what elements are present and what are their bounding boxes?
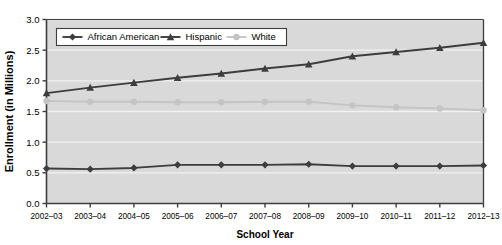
x-tick-label: 2010–11 (380, 212, 412, 221)
x-tick-label: 2002–03 (31, 212, 63, 221)
data-point-white (480, 107, 486, 113)
x-tick-label: 2003–04 (74, 212, 106, 221)
y-tick-label: 0.0 (26, 198, 39, 209)
x-tick-label: 2011–12 (424, 212, 456, 221)
x-tick-label: 2005–06 (162, 212, 194, 221)
chart-canvas: 0.00.51.01.52.02.53.02002–032003–042004–… (0, 0, 502, 245)
y-tick-label: 0.5 (26, 167, 39, 178)
legend-label-white: White (252, 31, 276, 42)
x-tick-label: 2007–08 (249, 212, 281, 221)
y-tick-label: 1.5 (26, 106, 39, 117)
y-axis-title: Enrollment (in Millions) (3, 50, 15, 172)
data-point-white (393, 104, 399, 110)
y-tick-label: 2.0 (26, 75, 39, 86)
data-point-white (306, 98, 312, 104)
data-point-white (87, 98, 93, 104)
enrollment-line-chart: 0.00.51.01.52.02.53.02002–032003–042004–… (0, 0, 502, 245)
legend-label-african-american: African American (88, 31, 160, 42)
legend-label-hispanic: Hispanic (186, 31, 223, 42)
data-point-white (349, 102, 355, 108)
data-point-white (131, 98, 137, 104)
x-tick-label: 2012–13 (468, 212, 500, 221)
data-point-white (218, 99, 224, 105)
data-point-white (43, 98, 49, 104)
data-point-white (174, 99, 180, 105)
x-tick-label: 2008–09 (293, 212, 325, 221)
data-point-white (437, 105, 443, 111)
x-tick-label: 2004–05 (118, 212, 150, 221)
y-tick-label: 3.0 (26, 14, 39, 25)
legend-marker-white (233, 34, 239, 40)
x-tick-label: 2006–07 (205, 212, 237, 221)
x-axis-title: School Year (236, 229, 293, 240)
y-tick-label: 1.0 (26, 137, 39, 148)
x-tick-label: 2009–10 (336, 212, 368, 221)
data-point-white (262, 98, 268, 104)
y-tick-label: 2.5 (26, 45, 39, 56)
